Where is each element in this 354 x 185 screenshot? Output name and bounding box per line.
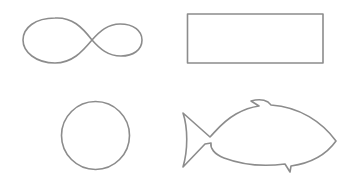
shapes-canvas xyxy=(0,0,354,185)
circle-shape xyxy=(62,102,130,170)
rectangle-shape xyxy=(188,14,324,63)
shapes-drawing xyxy=(0,0,354,185)
fish-shape xyxy=(183,100,336,172)
infinity-shape xyxy=(23,18,142,63)
